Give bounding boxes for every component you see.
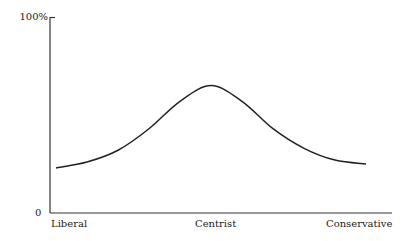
x-label-centrist: Centrist <box>195 218 236 229</box>
x-label-conservative: Conservative <box>326 218 392 229</box>
chart-area <box>0 0 408 241</box>
y-min-label: 0 <box>35 207 41 218</box>
distribution-curve <box>56 86 366 168</box>
y-max-label: 100% <box>19 11 48 22</box>
x-label-liberal: Liberal <box>51 218 87 229</box>
y-axis <box>50 17 55 213</box>
